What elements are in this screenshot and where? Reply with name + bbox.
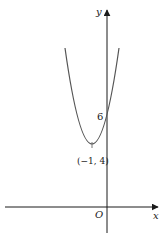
parabola-curve (65, 48, 119, 144)
vertex-label: (−1, 4) (77, 156, 109, 166)
x-axis-label: x (153, 210, 159, 221)
y-axis-label: y (95, 6, 102, 17)
y-intercept-label: 6 (97, 111, 103, 122)
parabola-graph: y x O 6 (−1, 4) (0, 0, 163, 241)
origin-label: O (95, 209, 103, 220)
